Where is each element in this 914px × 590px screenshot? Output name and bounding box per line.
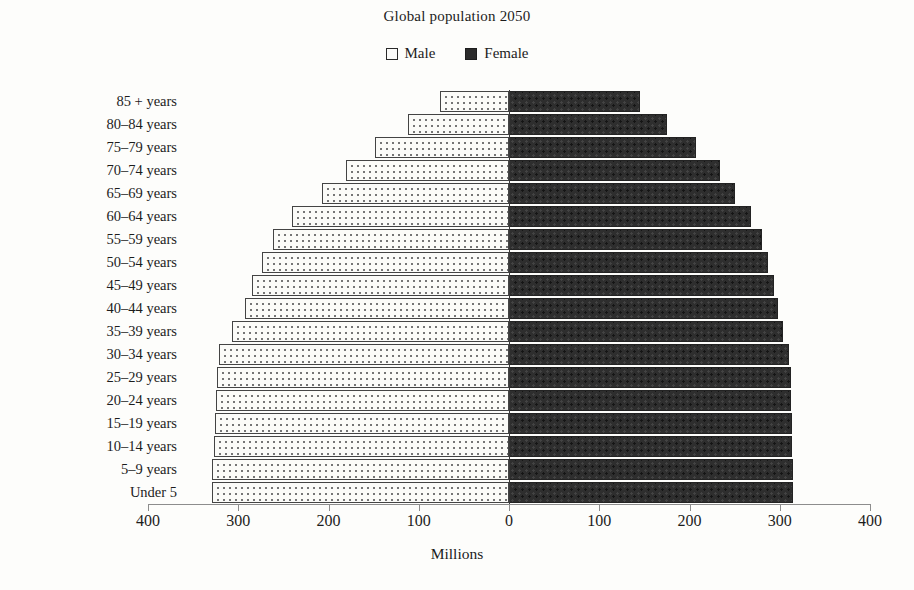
bar-female: [509, 91, 640, 112]
bar-male: [375, 137, 509, 158]
bar-female: [509, 298, 778, 319]
chart-title: Global population 2050: [0, 8, 914, 25]
age-group-label: 20–24 years: [0, 389, 185, 412]
bar-female: [509, 459, 793, 480]
pyramid-row: 45–49 years: [0, 274, 914, 297]
age-group-label: 75–79 years: [0, 136, 185, 159]
pyramid-row: 50–54 years: [0, 251, 914, 274]
pyramid-row: 70–74 years: [0, 159, 914, 182]
bar-male: [262, 252, 509, 273]
x-axis-tick: [599, 504, 600, 511]
chart-legend: Male Female: [0, 45, 914, 62]
age-group-label: 45–49 years: [0, 274, 185, 297]
bar-male: [252, 275, 509, 296]
filled-square-icon: [465, 48, 477, 60]
age-group-label: 5–9 years: [0, 458, 185, 481]
bar-male: [214, 436, 509, 457]
age-group-label: 60–64 years: [0, 205, 185, 228]
x-axis-tick: [870, 504, 871, 511]
x-axis-tick-label: 200: [678, 512, 702, 530]
bar-male: [232, 321, 509, 342]
bar-female: [509, 482, 793, 503]
bar-female: [509, 137, 696, 158]
bar-male: [212, 482, 509, 503]
open-square-icon: [386, 48, 398, 60]
x-axis-tick-label: 300: [226, 512, 250, 530]
age-group-label: 55–59 years: [0, 228, 185, 251]
age-group-label: 10–14 years: [0, 435, 185, 458]
pyramid-row: 10–14 years: [0, 435, 914, 458]
pyramid-row: 85 + years: [0, 90, 914, 113]
bar-female: [509, 252, 768, 273]
x-axis-tick: [329, 504, 330, 511]
bar-male: [217, 367, 509, 388]
age-group-label: 70–74 years: [0, 159, 185, 182]
bar-male: [322, 183, 509, 204]
population-pyramid-chart: Global population 2050 Male Female 85 + …: [0, 0, 914, 590]
x-axis-tick-label: 200: [317, 512, 341, 530]
bar-male: [440, 91, 509, 112]
bar-female: [509, 436, 792, 457]
age-group-label: 65–69 years: [0, 182, 185, 205]
x-axis-tick: [780, 504, 781, 511]
age-group-label: 30–34 years: [0, 343, 185, 366]
bar-female: [509, 160, 720, 181]
pyramid-row: 30–34 years: [0, 343, 914, 366]
x-axis-tick-label: 400: [858, 512, 882, 530]
pyramid-row: 15–19 years: [0, 412, 914, 435]
x-axis-tick-label: 100: [587, 512, 611, 530]
bar-female: [509, 344, 789, 365]
age-group-label: 85 + years: [0, 90, 185, 113]
x-axis-tick: [419, 504, 420, 511]
age-group-label: Under 5: [0, 481, 185, 504]
bar-female: [509, 413, 792, 434]
pyramid-row: 25–29 years: [0, 366, 914, 389]
bar-female: [509, 367, 791, 388]
x-axis-tick: [238, 504, 239, 511]
bar-female: [509, 390, 791, 411]
age-group-label: 50–54 years: [0, 251, 185, 274]
age-group-label: 15–19 years: [0, 412, 185, 435]
pyramid-row: 75–79 years: [0, 136, 914, 159]
bar-female: [509, 275, 774, 296]
x-axis-tick: [690, 504, 691, 511]
pyramid-row: 80–84 years: [0, 113, 914, 136]
bar-female: [509, 229, 762, 250]
pyramid-row: 40–44 years: [0, 297, 914, 320]
age-group-label: 80–84 years: [0, 113, 185, 136]
bar-male: [212, 459, 509, 480]
x-axis-tick: [148, 504, 149, 511]
bar-male: [273, 229, 509, 250]
pyramid-row: 55–59 years: [0, 228, 914, 251]
legend-entry-female: Female: [465, 45, 528, 62]
x-axis-tick-label: 100: [407, 512, 431, 530]
pyramid-row: 60–64 years: [0, 205, 914, 228]
bar-male: [292, 206, 509, 227]
bar-male: [215, 413, 509, 434]
zero-axis-line: [509, 90, 510, 504]
age-group-label: 40–44 years: [0, 297, 185, 320]
bar-female: [509, 321, 783, 342]
x-axis-tick-label: 0: [505, 512, 513, 530]
pyramid-row: 35–39 years: [0, 320, 914, 343]
pyramid-rows: 85 + years80–84 years75–79 years70–74 ye…: [0, 90, 914, 504]
x-axis-tick-label: 400: [136, 512, 160, 530]
bar-female: [509, 183, 735, 204]
bar-male: [219, 344, 509, 365]
legend-label-male: Male: [405, 45, 436, 62]
bar-male: [216, 390, 509, 411]
age-group-label: 35–39 years: [0, 320, 185, 343]
bar-female: [509, 206, 751, 227]
pyramid-row: 65–69 years: [0, 182, 914, 205]
bar-female: [509, 114, 667, 135]
age-group-label: 25–29 years: [0, 366, 185, 389]
bar-male: [346, 160, 509, 181]
x-axis-tick: [509, 504, 510, 511]
x-axis-tick-label: 300: [768, 512, 792, 530]
legend-entry-male: Male: [386, 45, 436, 62]
legend-label-female: Female: [484, 45, 528, 62]
pyramid-row: 20–24 years: [0, 389, 914, 412]
pyramid-row: Under 5: [0, 481, 914, 504]
x-axis-title: Millions: [0, 545, 914, 563]
pyramid-row: 5–9 years: [0, 458, 914, 481]
